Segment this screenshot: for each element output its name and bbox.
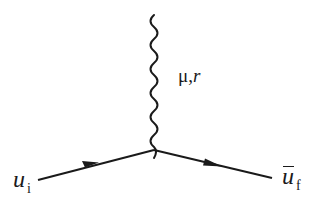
outgoing-arrow-icon [203, 159, 222, 167]
boson-wavy-line [151, 15, 158, 158]
boson-label-index: r [193, 65, 200, 86]
outgoing-label-main: u [282, 164, 294, 188]
outgoing-label-subscript: f [296, 178, 301, 193]
outgoing-fermion-label: uf [282, 164, 301, 188]
boson-label: μ,r [178, 66, 200, 85]
incoming-label-subscript: i [27, 181, 31, 196]
feynman-diagram: μ,r ui uf [0, 0, 316, 205]
incoming-fermion-line [38, 150, 154, 180]
boson-label-mu: μ, [178, 65, 193, 86]
diagram-graphics [0, 0, 316, 205]
incoming-fermion-label: ui [13, 167, 31, 191]
incoming-label-main: u [13, 166, 25, 192]
